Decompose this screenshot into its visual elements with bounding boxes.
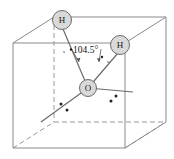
cube-edge-bottom-left-diagonal	[13, 122, 54, 148]
angle-dot-right	[101, 56, 103, 58]
lone-pair-dot	[66, 109, 69, 112]
angle-arrowhead-right	[97, 58, 101, 62]
atom-label-hydrogen-right: H	[117, 40, 124, 50]
cube-edge-front-right-to-back-right	[125, 122, 166, 148]
cube-edge-top-left-diagonal	[13, 17, 54, 43]
atom-label-hydrogen-top: H	[59, 15, 66, 25]
angle-bullet-dot	[70, 48, 72, 50]
atom-hydrogen-right: H	[111, 36, 130, 55]
lone-pair-dot	[115, 95, 118, 98]
cube-edge-top-right-diagonal	[125, 17, 166, 43]
atom-hydrogen-top: H	[53, 11, 72, 30]
lone-pair-dot	[110, 100, 113, 103]
bond-angle-label: 104.5°	[73, 45, 98, 55]
atom-label-oxygen: O	[85, 83, 92, 93]
x-marker-left: x	[63, 49, 66, 54]
bond-angle-annotation: 104.5° x x	[63, 45, 110, 64]
molecule-diagram: 104.5° x x H H O	[0, 0, 174, 159]
atom-oxygen: O	[80, 80, 97, 97]
bond-o-h-top	[63, 29, 88, 88]
molecule-canvas: 104.5° x x H H O	[0, 0, 174, 159]
lone-pair-dot	[60, 103, 63, 106]
